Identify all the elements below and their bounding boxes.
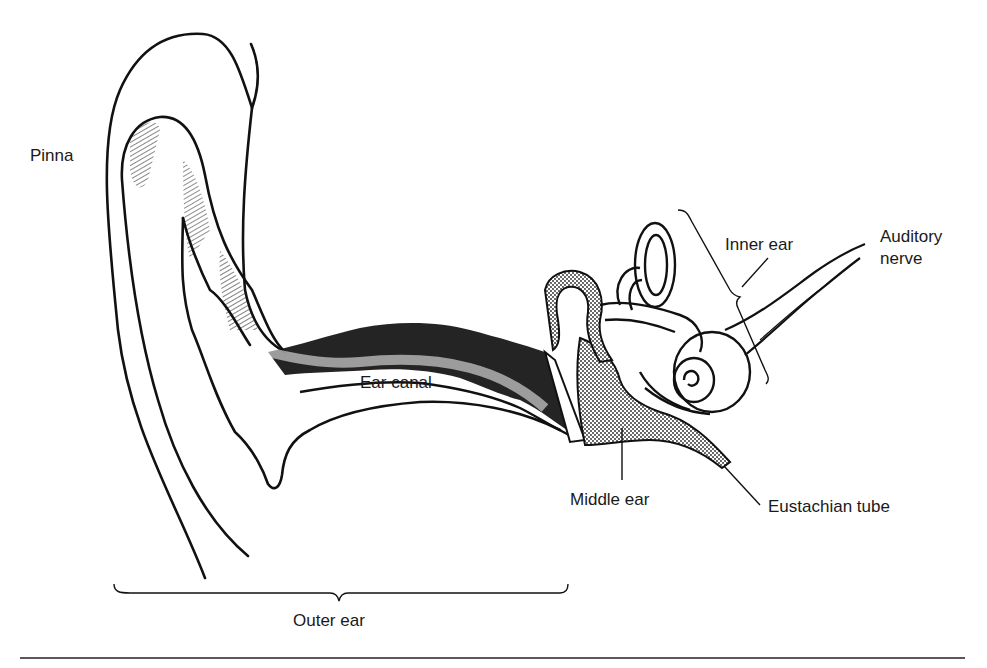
auditory-nerve-shape	[725, 244, 865, 355]
label-pinna: Pinna	[30, 146, 73, 166]
cochlea	[640, 332, 750, 414]
pinna-shape	[107, 34, 560, 578]
label-outer-ear: Outer ear	[293, 611, 365, 631]
label-eustachian-tube: Eustachian tube	[768, 497, 890, 517]
label-ear-canal: Ear canal	[360, 373, 432, 393]
ear-illustration	[0, 0, 987, 668]
semicircular-canals	[600, 223, 702, 352]
label-middle-ear: Middle ear	[570, 490, 649, 510]
label-auditory-nerve-line1: Auditory	[880, 227, 942, 247]
outer-ear-brace	[114, 584, 568, 601]
ear-anatomy-diagram: Pinna Ear canal Inner ear Auditory nerve…	[0, 0, 987, 668]
pinna-shading	[130, 122, 160, 187]
label-inner-ear: Inner ear	[725, 235, 793, 255]
eustachian-tube-leader-line	[724, 466, 760, 505]
inner-ear-leader-line	[742, 258, 768, 287]
label-auditory-nerve-line2: nerve	[880, 249, 923, 269]
